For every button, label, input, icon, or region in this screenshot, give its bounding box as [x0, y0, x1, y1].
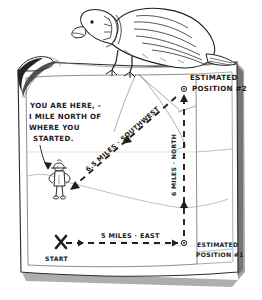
you-are-here-line-2: I MILE NORTH OF — [29, 112, 101, 121]
map-illustration: 5 MILES · EAST START ESTIMATED POSITION … — [0, 0, 262, 300]
you-are-here-line-3: WHERE YOU — [29, 123, 80, 132]
you-are-here-line-1: YOU ARE HERE, - — [29, 101, 101, 110]
label-leg-east: 5 MILES · EAST — [101, 232, 160, 240]
label-estimated-position-1-line1: ESTIMATED — [197, 241, 238, 248]
drawing-canvas: 5 MILES · EAST START ESTIMATED POSITION … — [0, 0, 262, 300]
label-estimated-position-1-line2: POSITION #1 — [196, 251, 244, 258]
label-start: START — [45, 255, 68, 262]
label-estimated-position-2-line2: POSITION #2 — [192, 84, 247, 93]
you-are-here-line-4: STARTED. — [33, 134, 74, 143]
label-estimated-position-2-line1: ESTIMATED — [190, 73, 238, 82]
label-leg-north: 6 MILES · NORTH — [170, 134, 177, 196]
